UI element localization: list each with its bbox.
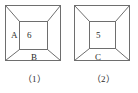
figure-1-label-b: B <box>31 53 37 62</box>
figure-1: A 6 B （1） <box>0 0 69 93</box>
diagonal-bottom-left <box>6 50 20 61</box>
diagonal-top-right <box>116 6 130 22</box>
figure-1-caption: （1） <box>0 74 69 85</box>
diagonal-top-left <box>75 6 90 22</box>
inner-square <box>20 22 48 50</box>
diagonal-top-left <box>6 6 20 22</box>
figure-1-label-6: 6 <box>27 31 32 40</box>
figure-2-caption: （2） <box>69 74 138 85</box>
inner-square <box>90 22 116 49</box>
figure-1-label-a: A <box>11 31 18 40</box>
diagonal-bottom-right <box>116 49 130 61</box>
figure-2-label-c: C <box>95 53 101 62</box>
diagonal-bottom-right <box>48 50 61 61</box>
diagonal-bottom-left <box>75 49 90 61</box>
figure-2: 5 C （2） <box>69 0 138 93</box>
diagram-sheet: A 6 B （1） 5 C （2） <box>0 0 138 93</box>
figure-2-drawing <box>69 0 138 72</box>
figure-2-label-5: 5 <box>96 31 101 40</box>
diagonal-top-right <box>48 6 61 22</box>
